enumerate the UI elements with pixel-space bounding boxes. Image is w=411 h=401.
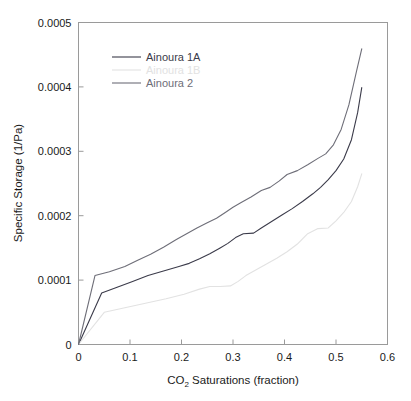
x-tick-label: 0.4 (277, 351, 292, 363)
y-tick-label: 0.0003 (38, 145, 72, 157)
x-tick-label: 0 (75, 351, 81, 363)
x-axis-title-rest: Saturations (fraction) (189, 374, 299, 386)
legend-label-ainoura-1b: Ainoura 1B (146, 64, 200, 76)
plot-frame (79, 23, 388, 345)
x-axis-title: CO2 Saturations (fraction) (167, 374, 299, 389)
x-axis-title-text: CO2 Saturations (fraction) (167, 374, 299, 389)
y-axis-title: Specific Storage (1/Pa) (12, 124, 24, 242)
chart-figure: 00.00010.00020.00030.00040.0005 00.10.20… (0, 0, 411, 401)
y-tick-label: 0.0005 (38, 17, 72, 29)
y-tick-label: 0.0001 (38, 274, 72, 286)
x-tick-label: 0.3 (225, 351, 240, 363)
data-series-group (79, 49, 362, 345)
y-tick-label: 0.0004 (38, 81, 72, 93)
x-axis-title-main: CO (167, 374, 184, 386)
y-axis-title-text: Specific Storage (1/Pa) (12, 124, 24, 242)
legend-label-ainoura-2: Ainoura 2 (146, 77, 193, 89)
chart-canvas: 00.00010.00020.00030.00040.0005 00.10.20… (0, 0, 411, 401)
y-tick-label: 0.0002 (38, 210, 72, 222)
y-tick-label: 0 (65, 339, 71, 351)
series-line-ainoura-1b (79, 174, 362, 345)
x-tick-label: 0.1 (122, 351, 137, 363)
y-axis-ticks: 00.00010.00020.00030.00040.0005 (38, 17, 84, 351)
x-axis-ticks: 00.10.20.30.40.50.6 (75, 340, 395, 363)
series-line-ainoura-2 (79, 49, 362, 345)
x-tick-label: 0.2 (174, 351, 189, 363)
x-tick-label: 0.6 (380, 351, 395, 363)
legend-label-ainoura-1a: Ainoura 1A (146, 51, 201, 63)
x-tick-label: 0.5 (328, 351, 343, 363)
chart-legend: Ainoura 1AAinoura 1BAinoura 2 (112, 51, 201, 89)
